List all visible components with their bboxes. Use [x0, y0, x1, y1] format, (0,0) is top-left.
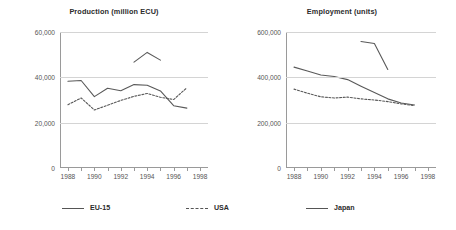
chart-figure: Production (million ECU) 020,00040,00060…	[0, 0, 456, 230]
x-tick-mark	[428, 168, 429, 171]
series-line-japan	[134, 52, 160, 62]
x-tick-label: 1996	[394, 173, 409, 180]
y-tick-label: 0	[277, 165, 281, 172]
x-tick-mark	[374, 168, 375, 171]
x-tick-mark	[160, 168, 161, 171]
x-tick-label: 1994	[367, 173, 382, 180]
y-tick-label: 20,000	[35, 119, 55, 126]
x-tick-mark	[121, 168, 122, 171]
gridline	[286, 77, 436, 78]
legend-item-usa: USA	[186, 204, 229, 212]
x-tick-mark	[68, 168, 69, 171]
x-tick-label: 1996	[166, 173, 181, 180]
legend-label: EU-15	[90, 204, 110, 212]
plot-area-production: 020,00040,00060,000198819901992199419961…	[60, 32, 208, 168]
y-tick-label: 60,000	[35, 29, 55, 36]
y-tick-label: 200,000	[257, 119, 281, 126]
series-line-japan	[361, 42, 388, 70]
series-lines-production	[60, 32, 208, 168]
series-lines-employment	[286, 32, 436, 168]
x-tick-mark	[294, 168, 295, 171]
legend-label: Japan	[334, 204, 355, 212]
x-tick-label: 1998	[193, 173, 208, 180]
x-tick-mark	[321, 168, 322, 171]
series-line-usa	[68, 88, 187, 110]
chart-legend: EU-15 USA Japan	[0, 204, 456, 220]
x-tick-mark	[334, 168, 335, 171]
chart-panel-production: Production (million ECU) 020,00040,00060…	[0, 0, 228, 196]
gridline	[286, 32, 436, 33]
series-line-eu-15	[294, 67, 415, 105]
x-tick-label: 1998	[421, 173, 436, 180]
x-tick-mark	[348, 168, 349, 171]
chart-panels: Production (million ECU) 020,00040,00060…	[0, 0, 456, 196]
y-tick-label: 0	[51, 165, 55, 172]
x-tick-mark	[108, 168, 109, 171]
x-tick-label: 1994	[140, 173, 155, 180]
legend-item-eu-15: EU-15	[62, 204, 110, 212]
x-tick-label: 1990	[87, 173, 102, 180]
series-line-eu-15	[68, 81, 187, 109]
x-tick-mark	[401, 168, 402, 171]
gridline	[60, 77, 208, 78]
series-line-usa	[294, 89, 415, 106]
y-tick-label: 400,000	[257, 74, 281, 81]
x-tick-mark	[174, 168, 175, 171]
x-tick-label: 1992	[113, 173, 128, 180]
x-tick-label: 1988	[287, 173, 302, 180]
x-tick-mark	[388, 168, 389, 171]
chart-title-production: Production (million ECU)	[0, 7, 228, 16]
x-tick-mark	[147, 168, 148, 171]
gridline	[286, 123, 436, 124]
y-tick-label: 600,000	[257, 29, 281, 36]
legend-label: USA	[214, 204, 229, 212]
x-tick-mark	[134, 168, 135, 171]
y-tick-label: 40,000	[35, 74, 55, 81]
x-tick-mark	[415, 168, 416, 171]
legend-swatch-icon	[186, 208, 208, 209]
x-tick-mark	[307, 168, 308, 171]
x-tick-mark	[94, 168, 95, 171]
x-tick-label: 1990	[313, 173, 328, 180]
plot-area-employment: 0200,000400,000600,000198819901992199419…	[286, 32, 436, 168]
chart-panel-employment: Employment (units) 0200,000400,000600,00…	[228, 0, 456, 196]
legend-swatch-icon	[62, 208, 84, 209]
chart-title-employment: Employment (units)	[228, 7, 456, 16]
x-tick-mark	[187, 168, 188, 171]
gridline	[60, 32, 208, 33]
x-tick-label: 1988	[61, 173, 76, 180]
x-tick-label: 1992	[340, 173, 355, 180]
x-tick-mark	[81, 168, 82, 171]
legend-item-japan: Japan	[306, 204, 355, 212]
x-tick-mark	[200, 168, 201, 171]
gridline	[60, 123, 208, 124]
x-tick-mark	[361, 168, 362, 171]
legend-swatch-icon	[306, 208, 328, 209]
